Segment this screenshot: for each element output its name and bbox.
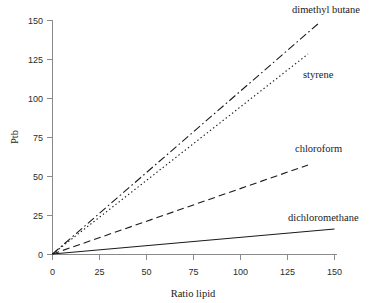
y-tick-label-50: 50 xyxy=(33,172,43,182)
x-tick-label-50: 50 xyxy=(141,267,151,277)
x-tick-label-75: 75 xyxy=(188,267,198,277)
series-line-dimethyl-butane xyxy=(53,23,320,254)
y-tick-label-25: 25 xyxy=(33,211,43,221)
y-axis-title: Ptb xyxy=(9,130,20,144)
y-tick-label-0: 0 xyxy=(38,250,43,260)
x-tick-label-25: 25 xyxy=(94,267,104,277)
series-label-styrene: styrene xyxy=(303,69,334,80)
series-label-dichloromethane: dichloromethane xyxy=(288,212,359,223)
y-tick-label-75: 75 xyxy=(33,133,43,143)
chart-container: 150 125 100 75 50 25 0 0 25 50 75 100 12… xyxy=(0,0,377,303)
x-axis-title: Ratio lipid xyxy=(171,288,216,299)
y-tick-label-150: 150 xyxy=(28,16,43,26)
x-tick-label-150: 150 xyxy=(327,267,342,277)
x-axis-ticks xyxy=(53,255,335,261)
series-label-chloroform: chloroform xyxy=(295,143,342,154)
y-tick-label-100: 100 xyxy=(28,94,43,104)
y-tick-label-125: 125 xyxy=(28,55,43,65)
series-line-styrene xyxy=(53,54,309,254)
x-tick-label-100: 100 xyxy=(233,267,248,277)
line-chart-svg: 150 125 100 75 50 25 0 0 25 50 75 100 12… xyxy=(0,0,377,303)
x-tick-label-0: 0 xyxy=(50,267,55,277)
series-label-dimethyl-butane: dimethyl butane xyxy=(292,4,360,15)
x-tick-label-125: 125 xyxy=(280,267,295,277)
series-line-chloroform xyxy=(53,165,309,254)
y-axis-ticks xyxy=(47,21,53,255)
series-line-dichloromethane xyxy=(53,229,335,254)
